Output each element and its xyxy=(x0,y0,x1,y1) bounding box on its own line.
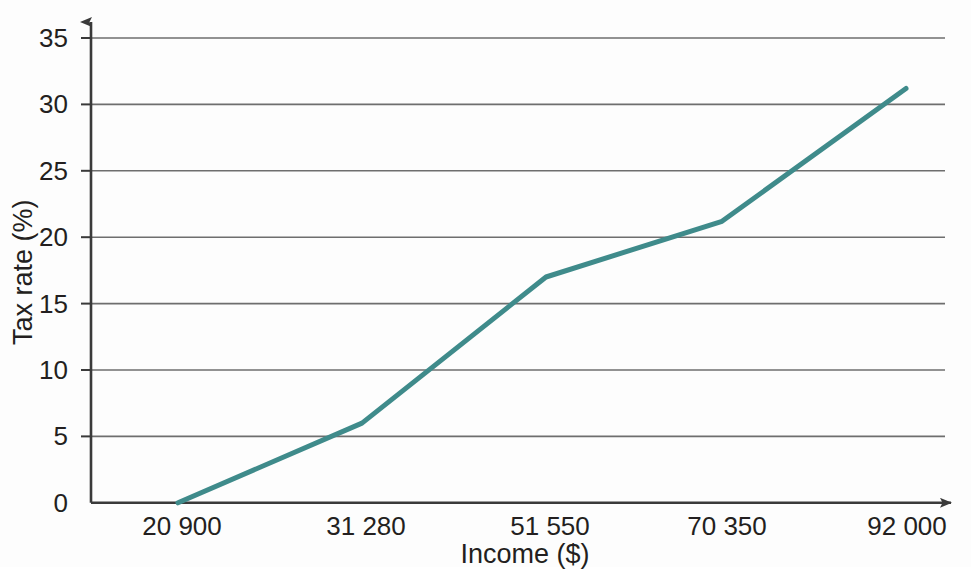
x-axis-title: Income ($) xyxy=(460,539,589,570)
y-tick-label-5: 5 xyxy=(12,421,68,452)
y-tick-label-30: 30 xyxy=(12,89,68,120)
y-axis-title: Tax rate (%) xyxy=(8,199,39,345)
x-tick-label-92000: 92 000 xyxy=(867,511,947,542)
y-tick-marks xyxy=(81,38,91,436)
x-tick-label-70350: 70 350 xyxy=(687,511,767,542)
x-tick-label-51550: 51 550 xyxy=(510,511,590,542)
x-tick-label-31280: 31 280 xyxy=(326,511,406,542)
y-tick-label-25: 25 xyxy=(12,155,68,186)
tax-rate-line xyxy=(178,89,906,503)
gridlines xyxy=(91,38,945,436)
y-tick-label-35: 35 xyxy=(12,23,68,54)
y-tick-label-10: 10 xyxy=(12,355,68,386)
y-tick-label-0: 0 xyxy=(12,487,68,518)
x-tick-label-20900: 20 900 xyxy=(142,511,222,542)
